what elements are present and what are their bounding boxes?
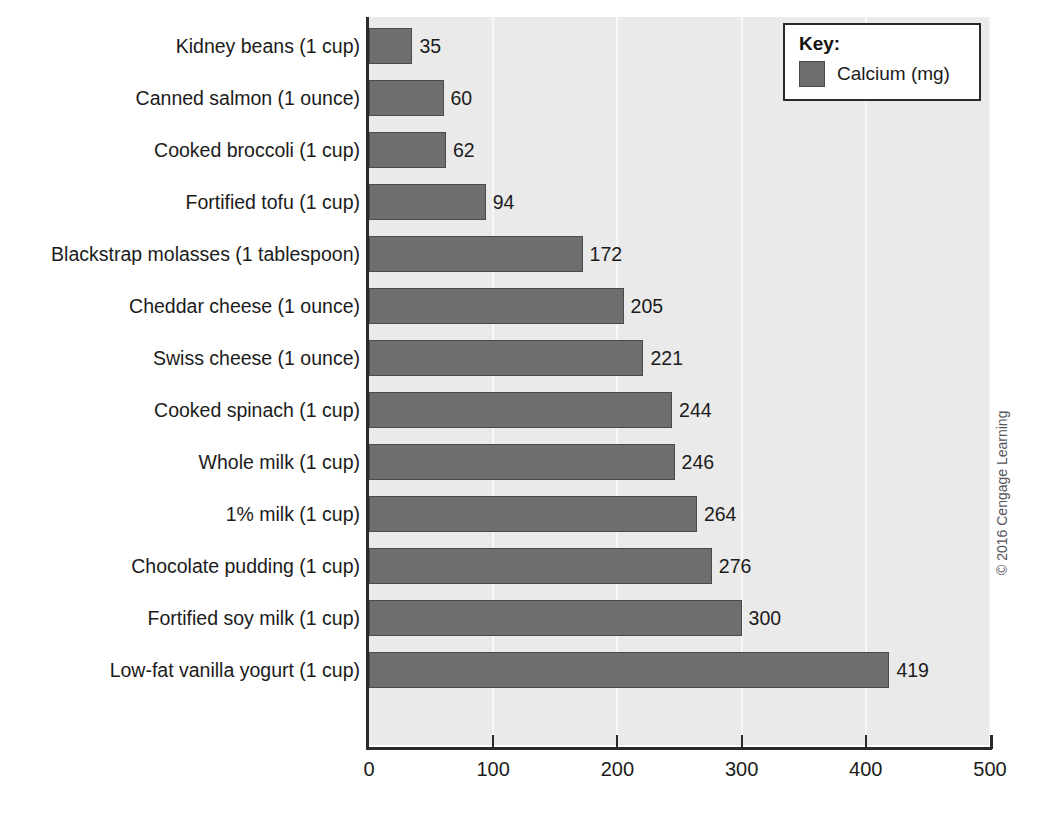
bar-value-label: 60 — [444, 80, 473, 116]
bar — [369, 28, 412, 64]
bar-container: 419 — [369, 652, 889, 688]
legend-color-swatch — [799, 61, 825, 87]
bar-container: 244 — [369, 392, 672, 428]
bar-value-label: 276 — [712, 548, 752, 584]
bar-container: 94 — [369, 184, 486, 220]
x-tick-label: 400 — [849, 758, 882, 781]
x-tick-mark — [741, 735, 743, 749]
bar-row: Blackstrap molasses (1 tablespoon)172 — [0, 236, 1039, 288]
bar-value-label: 172 — [583, 236, 623, 272]
bar — [369, 496, 697, 532]
bar-row: Cooked broccoli (1 cup)62 — [0, 132, 1039, 184]
x-tick-label: 500 — [973, 758, 1006, 781]
bar-row: Cheddar cheese (1 ounce)205 — [0, 288, 1039, 340]
bar-row: 1% milk (1 cup)264 — [0, 496, 1039, 548]
bar-container: 60 — [369, 80, 444, 116]
bar-value-label: 205 — [624, 288, 664, 324]
x-tick-label: 300 — [725, 758, 758, 781]
category-label: Whole milk (1 cup) — [0, 444, 360, 480]
bar-row: Swiss cheese (1 ounce)221 — [0, 340, 1039, 392]
bar-row: Chocolate pudding (1 cup)276 — [0, 548, 1039, 600]
bar — [369, 392, 672, 428]
category-label: Low-fat vanilla yogurt (1 cup) — [0, 652, 360, 688]
bar — [369, 600, 742, 636]
bar — [369, 444, 675, 480]
category-label: Cheddar cheese (1 ounce) — [0, 288, 360, 324]
bar-value-label: 94 — [486, 184, 515, 220]
bar-value-label: 62 — [446, 132, 475, 168]
x-tick-mark — [865, 735, 867, 749]
chart-legend: Key: Calcium (mg) — [783, 23, 981, 101]
category-label: Swiss cheese (1 ounce) — [0, 340, 360, 376]
x-tick-label: 0 — [363, 758, 374, 781]
x-tick-mark — [492, 735, 494, 749]
bar-row: Whole milk (1 cup)246 — [0, 444, 1039, 496]
bar-container: 264 — [369, 496, 697, 532]
bar — [369, 132, 446, 168]
x-tick-mark — [366, 735, 369, 749]
bar — [369, 548, 712, 584]
bar-value-label: 221 — [643, 340, 683, 376]
bar-container: 62 — [369, 132, 446, 168]
bar-value-label: 35 — [412, 28, 441, 64]
copyright-credit: © 2016 Cengage Learning — [994, 411, 1010, 575]
category-label: Canned salmon (1 ounce) — [0, 80, 360, 116]
bar — [369, 80, 444, 116]
category-label: Fortified soy milk (1 cup) — [0, 600, 360, 636]
bar-container: 172 — [369, 236, 583, 272]
bar-container: 276 — [369, 548, 712, 584]
category-label: Kidney beans (1 cup) — [0, 28, 360, 64]
legend-entry-label: Calcium (mg) — [837, 63, 950, 85]
bar-container: 35 — [369, 28, 412, 64]
bar-value-label: 264 — [697, 496, 737, 532]
bar-row: Fortified soy milk (1 cup)300 — [0, 600, 1039, 652]
bar-row: Fortified tofu (1 cup)94 — [0, 184, 1039, 236]
legend-entry-calcium: Calcium (mg) — [799, 61, 979, 87]
bar-container: 300 — [369, 600, 742, 636]
bar-value-label: 244 — [672, 392, 712, 428]
category-label: Blackstrap molasses (1 tablespoon) — [0, 236, 360, 272]
category-label: Chocolate pudding (1 cup) — [0, 548, 360, 584]
bar — [369, 236, 583, 272]
x-tick-mark — [990, 735, 993, 749]
x-tick-label: 100 — [477, 758, 510, 781]
bar-container: 205 — [369, 288, 624, 324]
bar-container: 246 — [369, 444, 675, 480]
category-label: Cooked spinach (1 cup) — [0, 392, 360, 428]
bar-value-label: 300 — [742, 600, 782, 636]
bar — [369, 340, 643, 376]
bar — [369, 288, 624, 324]
legend-title: Key: — [799, 33, 979, 55]
bar-value-label: 419 — [889, 652, 929, 688]
bar — [369, 652, 889, 688]
category-label: Fortified tofu (1 cup) — [0, 184, 360, 220]
category-label: Cooked broccoli (1 cup) — [0, 132, 360, 168]
bar-container: 221 — [369, 340, 643, 376]
bar-value-label: 246 — [675, 444, 715, 480]
category-label: 1% milk (1 cup) — [0, 496, 360, 532]
x-tick-label: 200 — [601, 758, 634, 781]
bar-row: Low-fat vanilla yogurt (1 cup)419 — [0, 652, 1039, 704]
x-axis-line — [366, 747, 992, 750]
x-tick-mark — [616, 735, 618, 749]
chart-figure: Kidney beans (1 cup)35Canned salmon (1 o… — [0, 0, 1039, 826]
bar-row: Cooked spinach (1 cup)244 — [0, 392, 1039, 444]
bar — [369, 184, 486, 220]
